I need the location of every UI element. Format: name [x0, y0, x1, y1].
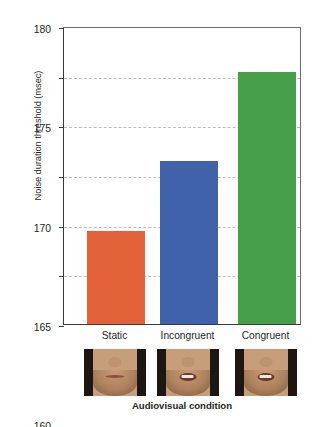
mouth-open	[257, 373, 274, 381]
y-tick-label-160: 160	[34, 421, 51, 427]
y-tick-175: 175	[59, 78, 64, 79]
mouth-closed	[105, 375, 124, 378]
nose-region	[181, 357, 194, 367]
y-tick-label-175: 175	[34, 123, 51, 134]
y-tick-label-165: 165	[34, 322, 51, 333]
plot-area: 150155160165170175180	[63, 27, 301, 325]
bar-congruent	[238, 72, 296, 324]
figure: Noise duration threshold (msec) 15015516…	[0, 0, 321, 427]
y-tick-165: 165	[59, 177, 64, 178]
y-tick-170: 170	[59, 127, 64, 128]
face-photo-incongruent	[157, 349, 219, 396]
y-tick-150: 150	[59, 326, 64, 327]
bar-incongruent	[160, 161, 218, 324]
bar-static	[87, 231, 145, 324]
teeth	[260, 375, 272, 378]
y-tick-label-180: 180	[34, 24, 51, 35]
x-axis-title: Audiovisual condition	[63, 400, 301, 411]
y-tick-label-170: 170	[34, 222, 51, 233]
face-photo-static	[84, 349, 146, 396]
teeth	[182, 375, 194, 378]
jaw-region	[93, 370, 137, 396]
mouth-open	[179, 373, 196, 381]
y-tick-155: 155	[59, 276, 64, 277]
face-photo-congruent	[235, 349, 297, 396]
y-tick-160: 160	[59, 227, 64, 228]
nose-region	[259, 357, 272, 367]
y-tick-180: 180	[59, 28, 64, 29]
nose-region	[108, 357, 121, 367]
x-tick-label-congruent: Congruent	[206, 330, 321, 341]
